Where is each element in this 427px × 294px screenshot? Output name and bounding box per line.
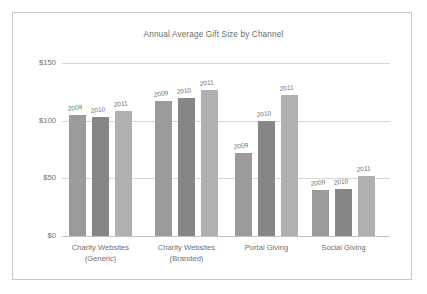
x-axis-category-label: Social Giving — [294, 243, 394, 254]
bar — [281, 95, 298, 236]
bar — [335, 189, 352, 236]
bar — [155, 101, 172, 236]
bar — [69, 115, 86, 236]
bar — [358, 176, 375, 236]
bar-year-label: 2009 — [153, 89, 168, 98]
bar-year-label: 2009 — [67, 103, 82, 112]
bar — [201, 90, 218, 236]
bar — [312, 190, 329, 236]
bar-year-label: 2011 — [113, 100, 128, 109]
bar — [115, 111, 132, 236]
bar-year-label: 2011 — [356, 164, 371, 173]
gridline — [62, 63, 390, 64]
bar — [178, 98, 195, 236]
gridline — [62, 121, 390, 122]
bar-year-label: 2010 — [256, 109, 271, 118]
y-axis-tick-label: $150 — [0, 58, 56, 67]
x-axis-baseline — [62, 236, 390, 237]
bar-year-label: 2009 — [233, 141, 248, 150]
plot-area: $0$50$100$150 20092010201120092010201120… — [62, 55, 390, 245]
bar-year-label: 2011 — [199, 78, 214, 87]
bar — [92, 117, 109, 236]
bar — [235, 153, 252, 236]
y-axis-tick-label: $100 — [0, 116, 56, 125]
bar-year-label: 2010 — [333, 177, 348, 186]
chart-title: Annual Average Gift Size by Channel — [0, 30, 427, 39]
chart-figure: Annual Average Gift Size by Channel $0$5… — [0, 0, 427, 294]
x-axis-category-label: Charity Websites (Generic) — [51, 243, 151, 264]
bar — [258, 121, 275, 236]
bar-year-label: 2009 — [310, 178, 325, 187]
bar-year-label: 2010 — [90, 105, 105, 114]
y-axis-tick-label: $50 — [0, 173, 56, 182]
y-axis-tick-label: $0 — [0, 231, 56, 240]
bar-year-label: 2011 — [279, 84, 294, 93]
bar-year-label: 2010 — [176, 86, 191, 95]
